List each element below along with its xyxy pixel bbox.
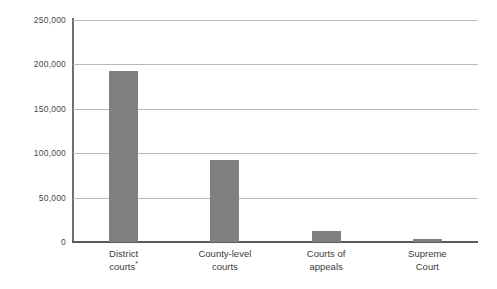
bar-chart: 050,000100,000150,000200,000250,000 Dist… — [0, 0, 497, 289]
x-axis-category-label-line: Court — [377, 261, 478, 274]
x-axis-category-label-line: courts* — [73, 261, 174, 274]
x-axis-category-label-line: appeals — [276, 261, 377, 274]
bar — [210, 160, 239, 242]
y-axis-tick-label: 0 — [61, 238, 66, 247]
x-axis-category-label-line: County-level — [174, 248, 275, 261]
bars-layer — [73, 20, 478, 242]
x-axis-category-label-line: courts — [174, 261, 275, 274]
x-axis-category-label-line: District — [73, 248, 174, 261]
x-axis-category-label-line: Supreme — [377, 248, 478, 261]
bar — [413, 239, 442, 242]
y-axis-tick-labels: 050,000100,000150,000200,000250,000 — [8, 0, 66, 289]
x-axis-category-label: County-levelcourts — [174, 248, 275, 273]
x-axis-category-labels: Districtcourts*County-levelcourtsCourts … — [73, 248, 478, 288]
x-axis-category-label-line: Courts of — [276, 248, 377, 261]
x-axis-category-label: Courts ofappeals — [276, 248, 377, 273]
x-axis-category-label: SupremeCourt — [377, 248, 478, 273]
y-axis-tick-label: 200,000 — [34, 60, 66, 69]
y-axis-tick-label: 250,000 — [34, 16, 66, 25]
y-axis-tick-label: 150,000 — [34, 105, 66, 114]
bar — [109, 71, 138, 242]
footnote-marker: * — [135, 259, 138, 266]
y-axis-tick-label: 50,000 — [39, 194, 66, 203]
bar — [312, 231, 341, 242]
y-axis-tick-label: 100,000 — [34, 149, 66, 158]
x-axis-category-label: Districtcourts* — [73, 248, 174, 273]
